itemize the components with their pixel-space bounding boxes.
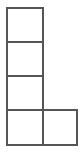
grid-cell-row2-col1 (6, 41, 44, 77)
grid-cell-row4-col1 (6, 109, 44, 146)
grid-cell-row1-col1 (6, 7, 44, 43)
grid-cell-row4-col2 (42, 109, 78, 146)
grid-cell-row3-col1 (6, 75, 44, 111)
figure-canvas (0, 0, 84, 152)
